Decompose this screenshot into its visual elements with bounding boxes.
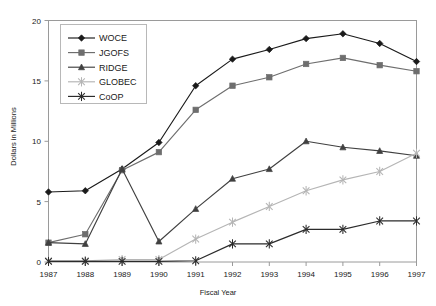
chart-plot-area: 20 15 10 5 0 1987 1988 1989 1990 1991 19… bbox=[0, 0, 436, 306]
y-tick-label: 5 bbox=[37, 198, 42, 207]
data-point-marker bbox=[82, 188, 88, 194]
line-chart: 20 15 10 5 0 1987 1988 1989 1990 1991 19… bbox=[0, 0, 436, 306]
legend-item-label: RIDGE bbox=[99, 63, 128, 73]
legend-item-label: JGOFS bbox=[99, 48, 129, 58]
legend-marker-swatch bbox=[79, 50, 84, 55]
x-axis-title: Fiscal Year bbox=[0, 288, 436, 297]
y-tick-label: 15 bbox=[32, 77, 41, 86]
x-tick-label: 1996 bbox=[371, 270, 389, 279]
data-point-marker bbox=[377, 62, 382, 67]
series-line bbox=[49, 141, 417, 244]
data-point-marker bbox=[266, 46, 272, 52]
data-point-marker bbox=[413, 58, 419, 64]
data-point-marker bbox=[193, 107, 198, 112]
x-tick-label: 1991 bbox=[187, 270, 205, 279]
x-tick-label: 1992 bbox=[224, 270, 242, 279]
data-point-marker bbox=[230, 83, 235, 88]
y-axis-title: Dollars in Millions bbox=[9, 77, 18, 197]
data-point-marker bbox=[156, 149, 161, 154]
data-point-marker bbox=[45, 189, 51, 195]
y-tick-label: 20 bbox=[32, 17, 41, 26]
x-axis-tick-labels: 1987 1988 1989 1990 1991 1992 1993 1994 … bbox=[40, 270, 426, 279]
x-tick-label: 1990 bbox=[150, 270, 168, 279]
x-tick-label: 1989 bbox=[113, 270, 131, 279]
data-point-marker bbox=[340, 31, 346, 37]
data-point-marker bbox=[266, 202, 273, 211]
data-point-marker bbox=[229, 218, 236, 227]
x-tick-label: 1988 bbox=[76, 270, 94, 279]
data-point-marker bbox=[83, 232, 88, 237]
series-ridge bbox=[45, 138, 419, 246]
data-point-marker bbox=[340, 55, 345, 60]
chart-legend: WOCEJGOFSRIDGEGLOBECCoOP bbox=[61, 25, 147, 104]
data-point-marker bbox=[266, 166, 272, 172]
y-axis-ticks bbox=[45, 21, 49, 263]
x-tick-label: 1997 bbox=[408, 270, 426, 279]
x-tick-label: 1987 bbox=[40, 270, 58, 279]
legend-item-label: WOCE bbox=[99, 33, 127, 43]
data-point-marker bbox=[303, 186, 310, 195]
data-point-marker bbox=[267, 75, 272, 80]
x-tick-label: 1995 bbox=[334, 270, 352, 279]
x-tick-label: 1994 bbox=[297, 270, 315, 279]
data-point-marker bbox=[303, 138, 309, 144]
legend-item-label: GLOBEC bbox=[99, 77, 137, 87]
data-point-marker bbox=[303, 61, 308, 66]
data-point-marker bbox=[192, 234, 199, 243]
y-tick-label: 10 bbox=[32, 137, 41, 146]
x-tick-label: 1993 bbox=[260, 270, 278, 279]
y-tick-label: 0 bbox=[37, 258, 42, 267]
y-axis-tick-labels: 20 15 10 5 0 bbox=[32, 17, 41, 268]
x-axis-ticks bbox=[49, 262, 417, 266]
data-point-marker bbox=[414, 68, 419, 73]
data-point-marker bbox=[303, 35, 309, 41]
legend-item-label: CoOP bbox=[99, 92, 124, 102]
data-point-marker bbox=[377, 40, 383, 46]
